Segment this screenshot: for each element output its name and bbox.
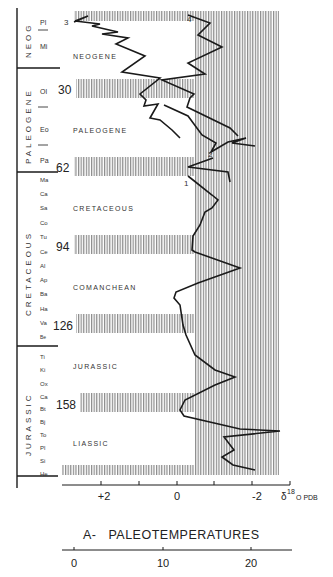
curve-number-3: 3 [64,18,69,27]
tick-label: 0 [174,490,180,502]
stage-label: To [40,432,47,438]
tick-label: +2 [98,490,111,502]
interval-label: NEOGENE [73,53,117,60]
curve-number-4: 4 [187,15,192,24]
stage-label: Ol [40,88,47,95]
temperature-tick-labels: 0 10 20 [71,557,257,569]
interval-label: CRETACEOUS [73,205,134,212]
interval-label: LIASSIC [73,440,109,447]
tick-label: 0 [71,557,77,569]
period-cretaceous: CRETACEOUS [24,231,33,316]
tick-label: -2 [252,490,262,502]
tick-label: 10 [157,557,169,569]
age-marker: 158 [56,398,76,412]
figure-title: A- PALEOTEMPERATURES [83,528,260,542]
stage-label: Ca [40,191,48,197]
temperature-axis [62,547,292,550]
stage-label: Ba [40,291,48,297]
stage-label: Co [40,220,48,226]
curve-number-1: 1 [184,179,189,188]
stage-label: Va [40,320,48,326]
stage-label: Pl [40,445,45,451]
interval-label: COMANCHEAN [73,284,137,291]
stage-label: Ti [40,354,45,360]
age-marker: 30 [58,83,72,97]
stage-label: Ap [40,277,48,283]
stage-label: Tu [40,234,47,240]
d18o-tick-labels: +2 0 -2 [98,490,262,502]
stage-label: Si [40,458,45,464]
period-jurassic: JURASSIC [24,392,33,456]
stage-label: Ca [40,394,48,400]
period-labels: NEOG PALEOGENE CRETACEOUS JURASSIC [24,22,33,456]
stage-label: He [40,471,48,477]
curve-number-2: 2 [208,150,213,159]
stage-label: Eo [40,126,49,133]
age-marker: 94 [56,240,70,254]
age-marker: 62 [56,161,70,175]
svg-text:18: 18 [287,488,295,495]
stage-label: Ki [40,367,45,373]
d18o-axis [62,481,290,485]
stage-label: Al [40,263,45,269]
interval-label: JURASSIC [73,363,118,370]
stage-label: Ha [40,306,48,312]
stage-label: Be [40,334,46,340]
period-neogene: NEOG [24,22,33,58]
stage-label: Bt [40,406,46,412]
axis-unit-label: δ 18 O PDB [281,488,318,502]
stage-label: Ox [40,381,48,387]
svg-text:O PDB: O PDB [296,494,318,501]
period-paleogene: PALEOGENE [24,88,33,164]
stage-label: Mi [40,43,48,50]
stage-labels: Pl Mi Ol Eo Pa Ma Ca Sa Co Tu Ce Al Ap B… [40,19,49,477]
paleotemperature-chart: 3 4 2 1 NEOG PALEOGENE CRETACEOUS JURASS… [0,0,333,577]
stage-label: Sa [40,205,48,211]
stage-label: Ma [40,177,49,183]
stage-label: Pa [40,157,49,164]
stage-label: Ce [40,249,48,255]
tick-label: 20 [245,557,257,569]
stage-label: Bj [40,419,45,425]
stage-label: Pl [40,19,47,26]
interval-label: PALEOGENE [73,127,127,134]
age-marker: 126 [53,319,73,333]
